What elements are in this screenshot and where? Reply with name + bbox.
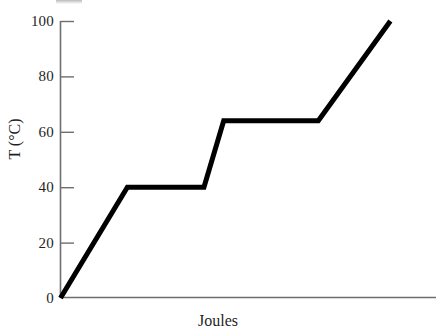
heating-curve-line bbox=[61, 21, 391, 298]
y-tick-label-20: 20 bbox=[10, 236, 54, 251]
x-axis-title: Joules bbox=[0, 312, 436, 330]
y-tick-label-80: 80 bbox=[10, 69, 54, 84]
y-axis-title: T (°C) bbox=[6, 100, 24, 178]
y-tick-label-100: 100 bbox=[10, 14, 54, 29]
heating-curve-chart: 100 80 60 40 20 0 T (°C) Joules bbox=[0, 0, 436, 334]
y-tick-label-0: 0 bbox=[10, 291, 54, 306]
plot-area bbox=[0, 0, 436, 334]
y-tick-label-40: 40 bbox=[10, 180, 54, 195]
